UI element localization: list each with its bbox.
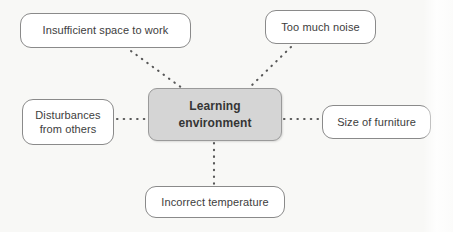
node-size-of-furniture-label: Size of furniture [337,115,416,129]
connector-insufficient-space-to-center [131,51,182,88]
node-size-of-furniture[interactable]: Size of furniture [322,105,431,139]
node-incorrect-temperature[interactable]: Incorrect temperature [145,186,285,218]
node-incorrect-temperature-label: Incorrect temperature [161,195,268,209]
connector-too-much-noise-to-center [249,47,291,88]
node-disturbances-from-others[interactable]: Disturbances from others [22,99,114,145]
node-learning-environment-label: Learning environment [178,98,251,130]
node-insufficient-space[interactable]: Insufficient space to work [20,13,191,48]
node-learning-environment[interactable]: Learning environment [148,88,282,141]
node-disturbances-from-others-label: Disturbances from others [35,108,100,136]
node-insufficient-space-label: Insufficient space to work [43,23,169,37]
node-too-much-noise[interactable]: Too much noise [265,10,376,44]
node-too-much-noise-label: Too much noise [281,20,359,34]
diagram-canvas: Insufficient space to work Too much nois… [0,0,453,232]
